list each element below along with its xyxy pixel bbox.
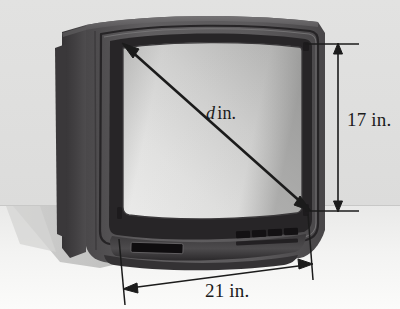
diagonal-unit: in. <box>217 103 236 123</box>
diagonal-symbol: d <box>206 103 217 123</box>
television <box>55 16 325 270</box>
diagonal-label: din. <box>206 104 236 122</box>
width-label: 21 in. <box>205 281 249 300</box>
figure-canvas <box>0 0 400 309</box>
height-label: 17 in. <box>347 110 391 129</box>
control-slot <box>131 242 183 253</box>
bezel-corner-tab-bottom-left <box>117 207 122 219</box>
crt-television-dimension-diagram: din. 17 in. 21 in. <box>0 0 400 309</box>
